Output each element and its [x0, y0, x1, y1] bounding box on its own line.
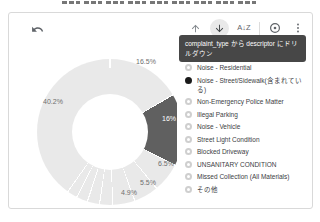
legend-item-label: Noise - Vehicle — [197, 122, 308, 131]
undo-button[interactable] — [29, 21, 45, 37]
slice-label: 4.9% — [121, 189, 137, 196]
legend-list: Noise - Residential Noise - Street/Sidew… — [185, 63, 308, 194]
legend-item[interactable]: Noise - Street/Sidewalk(含まれている) — [185, 76, 308, 94]
drill-down-tooltip: complaint_type から descriptor にドリルダウン — [179, 35, 306, 62]
donut-hole — [72, 94, 148, 170]
legend-radio-icon — [185, 148, 192, 155]
legend-item[interactable]: Noise - Vehicle — [185, 122, 308, 131]
legend-radio-icon — [185, 98, 192, 105]
sort-button[interactable]: A↓Z — [236, 20, 252, 36]
legend-item-label: UNSANITARY CONDITION — [197, 160, 308, 169]
more-vert-icon — [292, 22, 304, 34]
undo-icon — [31, 23, 44, 36]
legend-radio-icon — [185, 173, 192, 180]
slice-label: 40.2% — [43, 98, 63, 105]
sort-alpha-icon: A↓Z — [237, 24, 250, 32]
legend-radio-icon — [185, 77, 192, 84]
more-menu-button[interactable] — [290, 20, 306, 36]
chart-legend: Noise - Residential Noise - Street/Sidew… — [177, 57, 310, 205]
legend-item-label: Noise - Residential — [197, 63, 308, 72]
legend-radio-icon — [185, 64, 192, 71]
explore-button[interactable] — [267, 20, 283, 36]
toolbar-divider — [259, 22, 260, 35]
arrow-down-icon — [214, 23, 225, 34]
slice-label: 16.5% — [136, 58, 156, 65]
clipped-title-text — [62, 0, 258, 5]
legend-item-label: Missed Collection (All Materials) — [197, 172, 308, 181]
slice-label: 16% — [162, 115, 176, 122]
legend-item[interactable]: Missed Collection (All Materials) — [185, 172, 308, 181]
legend-item[interactable]: Noise - Residential — [185, 63, 308, 72]
legend-item-label: Blocked Driveway — [197, 147, 308, 156]
chart-card: A↓Z 16.5% 16% 6.5% 5.5% 4.9% 40.2% Noise… — [8, 12, 313, 209]
legend-item[interactable]: Blocked Driveway — [185, 147, 308, 156]
legend-item-label: その他 — [197, 185, 308, 194]
explore-icon — [269, 22, 281, 34]
legend-item-label: Illegal Parking — [197, 110, 308, 119]
drill-up-button[interactable] — [187, 20, 203, 36]
legend-radio-icon — [185, 111, 192, 118]
legend-item-label: Non-Emergency Police Matter — [197, 97, 308, 106]
legend-radio-icon — [185, 136, 192, 143]
legend-radio-icon — [185, 161, 192, 168]
slice-label: 6.5% — [158, 160, 174, 167]
legend-item[interactable]: Non-Emergency Police Matter — [185, 97, 308, 106]
legend-item[interactable]: UNSANITARY CONDITION — [185, 160, 308, 169]
legend-radio-icon — [185, 123, 192, 130]
legend-item[interactable]: Street Light Condition — [185, 135, 308, 144]
legend-item[interactable]: その他 — [185, 185, 308, 194]
legend-item[interactable]: Illegal Parking — [185, 110, 308, 119]
slice-label: 5.5% — [140, 179, 156, 186]
legend-radio-icon — [185, 186, 192, 193]
legend-item-label: Street Light Condition — [197, 135, 308, 144]
legend-item-label: Noise - Street/Sidewalk(含まれている) — [197, 76, 308, 94]
arrow-up-icon — [190, 23, 201, 34]
